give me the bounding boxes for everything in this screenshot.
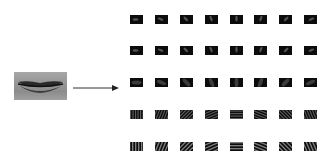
filter-response-thumb	[205, 78, 218, 87]
filter-response-thumb	[254, 142, 267, 151]
filter-response-thumb	[304, 78, 317, 87]
filter-response-thumb	[205, 15, 218, 24]
filter-response-thumb	[155, 78, 168, 87]
filter-response-thumb	[230, 142, 243, 151]
filter-response-thumb	[304, 142, 317, 151]
filter-response-thumb	[205, 142, 218, 151]
filter-response-thumb	[180, 46, 193, 55]
filter-response-thumb	[130, 46, 143, 55]
lip-shape-icon	[14, 72, 67, 100]
filter-response-thumb	[254, 15, 267, 24]
filter-response-thumb	[180, 110, 193, 119]
filter-response-thumb	[279, 110, 292, 119]
filter-response-thumb	[230, 78, 243, 87]
filter-response-thumb	[254, 46, 267, 55]
filter-response-thumb	[304, 110, 317, 119]
filter-response-thumb	[230, 110, 243, 119]
filter-response-thumb	[180, 78, 193, 87]
filter-response-thumb	[279, 15, 292, 24]
filter-response-thumb	[205, 46, 218, 55]
filter-response-thumb	[254, 110, 267, 119]
filter-response-thumb	[304, 46, 317, 55]
filter-response-thumb	[230, 15, 243, 24]
filter-response-thumb	[279, 78, 292, 87]
filter-response-thumb	[130, 15, 143, 24]
filter-response-thumb	[230, 46, 243, 55]
filter-response-thumb	[279, 46, 292, 55]
filter-response-thumb	[130, 142, 143, 151]
filter-response-thumb	[155, 46, 168, 55]
filter-response-thumb	[155, 142, 168, 151]
filter-response-thumb	[130, 110, 143, 119]
filter-response-thumb	[130, 78, 143, 87]
filter-response-thumb	[205, 110, 218, 119]
lip-image	[14, 72, 67, 100]
filter-response-thumb	[279, 142, 292, 151]
filter-response-thumb	[180, 142, 193, 151]
arrow-icon	[72, 82, 122, 94]
filter-response-thumb	[304, 15, 317, 24]
filter-response-thumb	[254, 78, 267, 87]
filter-response-thumb	[155, 15, 168, 24]
filter-response-thumb	[155, 110, 168, 119]
filter-response-thumb	[180, 15, 193, 24]
